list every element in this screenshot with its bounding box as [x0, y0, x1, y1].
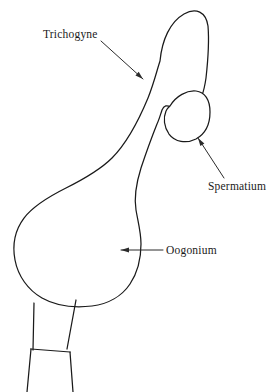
carpogonium-diagram: Trichogyne Spermatium Oogonium — [0, 0, 280, 392]
label-trichogyne: Trichogyne — [43, 28, 98, 41]
label-spermatium: Spermatium — [208, 180, 266, 193]
diagram-canvas: Trichogyne Spermatium Oogonium — [0, 0, 280, 392]
stalk-septum — [31, 349, 70, 352]
label-oogonium: Oogonium — [166, 244, 217, 257]
stalk-upper-cell-walls — [33, 300, 76, 350]
leader-line-trichogyne — [101, 41, 143, 79]
carpogonium-outline — [14, 11, 209, 307]
stalk-lower-cell-walls — [27, 349, 73, 392]
arrow-head-spermatium — [198, 138, 204, 146]
